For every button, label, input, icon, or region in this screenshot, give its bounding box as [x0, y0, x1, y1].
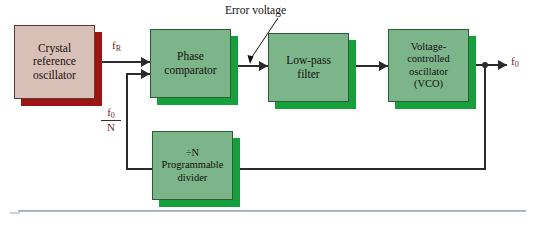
- phase-comparator-label-line2: comparator: [164, 64, 216, 78]
- feedback-fraction-denominator: N: [101, 122, 121, 134]
- block-divider-face: ÷N Programmable divider: [152, 131, 233, 200]
- vco-label-line2: controlled: [407, 53, 450, 65]
- block-programmable-divider: ÷N Programmable divider: [152, 131, 233, 200]
- wire-feedback-vertical: [126, 73, 128, 169]
- pll-block-diagram: Crystal reference oscillator Phase compa…: [0, 0, 533, 227]
- arrowhead-comparator-input-feedback: [141, 69, 150, 79]
- signal-label-reference-frequency: fR: [112, 39, 121, 51]
- block-vco-face: Voltage- controlled oscillator (VCO): [388, 29, 469, 102]
- phase-comparator-label-line1: Phase: [164, 50, 216, 64]
- low-pass-filter-label-line2: filter: [286, 68, 331, 82]
- divider-label-line3: divider: [162, 172, 224, 184]
- block-crystal-face: Crystal reference oscillator: [14, 25, 95, 99]
- wire-output-feedback-horizontal: [232, 168, 485, 170]
- block-phase-comparator: Phase comparator: [150, 29, 231, 98]
- block-crystal-reference-oscillator: Crystal reference oscillator: [14, 25, 95, 99]
- signal-f0-subscript: 0: [515, 60, 519, 69]
- vco-label-line4: (VCO): [407, 78, 450, 90]
- wire-output-feedback-vertical: [484, 64, 486, 170]
- divider-label-line1: ÷N: [162, 147, 224, 159]
- annotation-error-voltage: Error voltage: [225, 4, 286, 16]
- leader-line-error-voltage: [240, 16, 320, 66]
- block-voltage-controlled-oscillator: Voltage- controlled oscillator (VCO): [388, 29, 469, 102]
- feedback-fraction-numerator: f0: [101, 107, 121, 119]
- signal-fr-subscript: R: [116, 44, 121, 53]
- bottom-rule-tip: [10, 212, 20, 214]
- vco-label-line3: oscillator: [407, 66, 450, 78]
- arrowhead-vco-input: [379, 61, 388, 71]
- crystal-label-line1: Crystal: [33, 42, 76, 56]
- divider-label-line2: Programmable: [162, 159, 224, 171]
- feedback-numerator-subscript: 0: [111, 111, 115, 120]
- arrowhead-comparator-input-ref: [141, 57, 150, 67]
- arrowhead-output: [498, 60, 507, 70]
- bottom-rule: [18, 210, 526, 212]
- block-phase-comparator-face: Phase comparator: [150, 29, 231, 98]
- signal-label-feedback-frequency: f0 N: [101, 107, 121, 133]
- crystal-label-line3: oscillator: [33, 69, 76, 83]
- vco-label-line1: Voltage-: [407, 41, 450, 53]
- crystal-label-line2: reference: [33, 55, 76, 69]
- signal-label-output-frequency: f0: [511, 55, 519, 67]
